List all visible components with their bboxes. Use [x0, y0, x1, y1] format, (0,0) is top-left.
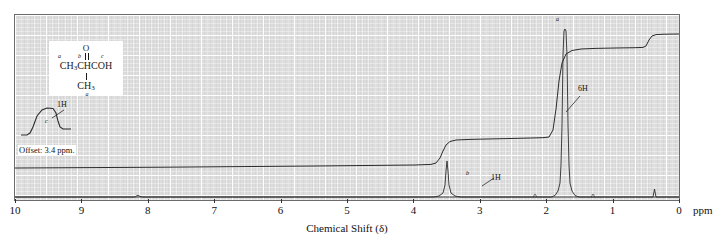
structure-methyl-label-a: a: [51, 91, 123, 97]
peak-letter-a: a: [556, 16, 559, 22]
x-axis-tick-mark: [15, 199, 16, 203]
x-axis-tick-9: 9: [79, 204, 85, 216]
structure-label-a: a: [58, 53, 61, 59]
structure-main-chain: CH3CHCOH: [49, 61, 123, 72]
peak-letter-c: c: [45, 118, 48, 124]
structure-bond-line: [86, 73, 87, 80]
x-axis-tick-2: 2: [543, 204, 549, 216]
structure-double-bond: [85, 53, 89, 60]
x-axis-tick-mark: [281, 199, 282, 203]
x-axis-tick-8: 8: [145, 204, 151, 216]
offset-note: Offset: 3.4 ppm.: [18, 145, 76, 155]
x-axis-tick-mark: [148, 199, 149, 203]
integral-label-a: 6H: [578, 84, 588, 93]
structure-lower-sub: 3: [91, 84, 95, 92]
x-axis-tick-10: 10: [10, 204, 21, 216]
x-axis: 109876543210 ppm Chemical Shift (δ): [0, 201, 694, 244]
x-axis-tick-4: 4: [411, 204, 417, 216]
chemical-structure-inset: O a b c CH3CHCOH CH3 a: [49, 41, 123, 96]
x-axis-tick-mark: [347, 199, 348, 203]
integral-label-c: 1H: [57, 100, 67, 109]
x-axis-tick-0: 0: [676, 204, 682, 216]
x-axis-tick-mark: [546, 199, 547, 203]
x-axis-tick-mark: [480, 199, 481, 203]
x-axis-tick-mark: [214, 199, 215, 203]
x-axis-tick-3: 3: [477, 204, 483, 216]
structure-atom-labels: a b c: [49, 53, 123, 60]
x-axis-tick-mark: [81, 199, 82, 203]
structure-label-b: b: [78, 53, 81, 59]
x-axis-tick-1: 1: [610, 204, 616, 216]
x-axis-tick-7: 7: [211, 204, 217, 216]
x-axis-tick-5: 5: [344, 204, 350, 216]
structure-lower-pre: CH: [77, 80, 91, 91]
structure-carbonyl-oxygen: O: [49, 44, 123, 53]
x-axis-tick-mark: [613, 199, 614, 203]
x-axis-tick-6: 6: [278, 204, 284, 216]
structure-main-pre: CH: [60, 60, 74, 71]
x-axis-caption: Chemical Shift (δ): [0, 222, 694, 234]
x-axis-tick-mark: [679, 199, 680, 203]
x-axis-tick-mark: [413, 199, 414, 203]
structure-label-c: c: [101, 53, 104, 59]
structure-main-post: CHCOH: [77, 60, 112, 71]
x-axis-unit-label: ppm: [693, 204, 713, 216]
integral-label-b: 1H: [491, 173, 501, 182]
peak-letter-b: b: [466, 170, 469, 176]
